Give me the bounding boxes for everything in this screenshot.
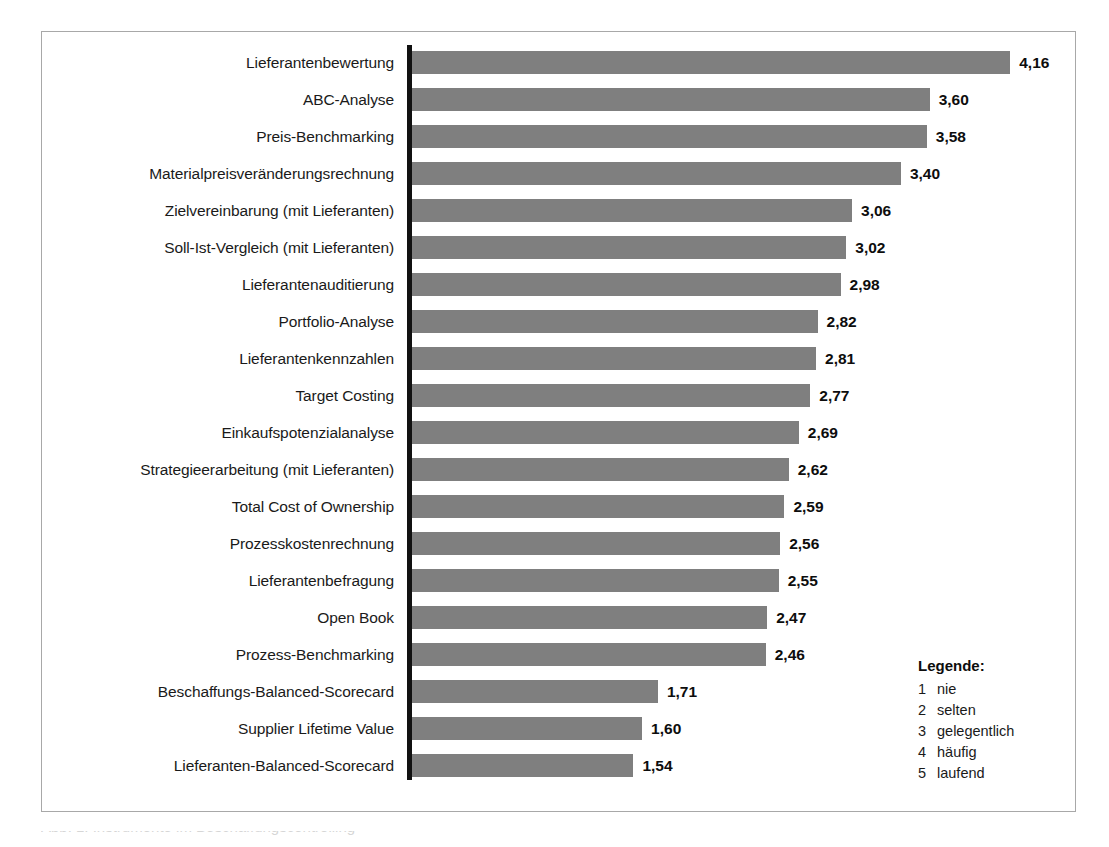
bar-row: Target Costing2,77 [42, 384, 1075, 407]
bar-row: Lieferantenbefragung2,55 [42, 569, 1075, 592]
bar-container: 4,16 [412, 51, 1010, 74]
category-label: Prozess-Benchmarking [42, 641, 394, 668]
bar-row: Preis-Benchmarking3,58 [42, 125, 1075, 148]
legend-item-key: 3 [907, 721, 937, 742]
legend-title: Legende: [907, 657, 1057, 674]
bar-container: 2,98 [412, 273, 841, 296]
category-label: Materialpreisveränderungsrechnung [42, 160, 394, 187]
bar-value-label: 2,69 [799, 420, 838, 445]
bar [412, 384, 810, 407]
bar-value-label: 2,98 [841, 272, 880, 297]
bar-value-label: 2,62 [789, 457, 828, 482]
legend-item-key: 4 [907, 742, 937, 763]
bar-row: Zielvereinbarung (mit Lieferanten)3,06 [42, 199, 1075, 222]
bar-row: Soll-Ist-Vergleich (mit Lieferanten)3,02 [42, 236, 1075, 259]
bar-value-label: 2,82 [818, 309, 857, 334]
bar-container: 1,71 [412, 680, 658, 703]
legend-item-label: selten [937, 700, 1057, 721]
bar [412, 236, 846, 259]
legend-item-label: gelegentlich [937, 721, 1057, 742]
bar [412, 717, 642, 740]
category-label: Lieferantenkennzahlen [42, 345, 394, 372]
category-label: Lieferantenbewertung [42, 49, 394, 76]
bar [412, 421, 799, 444]
bar-container: 2,55 [412, 569, 779, 592]
bar [412, 273, 841, 296]
figure-caption-text: Abb. 1: Instrumente im Beschaffungscontr… [41, 831, 355, 835]
bar-container: 3,02 [412, 236, 846, 259]
bar-row: Lieferantenkennzahlen2,81 [42, 347, 1075, 370]
bar-value-label: 4,16 [1010, 50, 1049, 75]
bar [412, 606, 767, 629]
category-label: Beschaffungs-Balanced-Scorecard [42, 678, 394, 705]
category-label: Lieferantenauditierung [42, 271, 394, 298]
legend-item: 2selten [907, 700, 1057, 721]
bar-row: Open Book2,47 [42, 606, 1075, 629]
bar-value-label: 2,55 [779, 568, 818, 593]
bar [412, 754, 633, 777]
bar-value-label: 3,40 [901, 161, 940, 186]
bar-value-label: 3,06 [852, 198, 891, 223]
bar [412, 569, 779, 592]
bar-row: Portfolio-Analyse2,82 [42, 310, 1075, 333]
bar-value-label: 2,56 [780, 531, 819, 556]
bar [412, 162, 901, 185]
bar-value-label: 3,02 [846, 235, 885, 260]
bar-row: Prozesskostenrechnung2,56 [42, 532, 1075, 555]
bar-container: 2,47 [412, 606, 767, 629]
bar-row: ABC-Analyse3,60 [42, 88, 1075, 111]
bar [412, 347, 816, 370]
category-label: ABC-Analyse [42, 86, 394, 113]
figure-caption-clipped: Abb. 1: Instrumente im Beschaffungscontr… [41, 831, 1076, 847]
category-label: Prozesskostenrechnung [42, 530, 394, 557]
category-label: Strategieerarbeitung (mit Lieferanten) [42, 456, 394, 483]
chart-frame: Lieferantenbewertung4,16ABC-Analyse3,60P… [41, 31, 1076, 812]
bar-value-label: 2,77 [810, 383, 849, 408]
bar-container: 2,82 [412, 310, 818, 333]
legend-item: 1nie [907, 679, 1057, 700]
category-label: Zielvereinbarung (mit Lieferanten) [42, 197, 394, 224]
bar-container: 1,54 [412, 754, 633, 777]
category-label: Preis-Benchmarking [42, 123, 394, 150]
bar-value-label: 2,59 [784, 494, 823, 519]
bar [412, 680, 658, 703]
legend: Legende: 1nie2selten3gelegentlich4häufig… [907, 657, 1057, 784]
bar [412, 199, 852, 222]
bar-value-label: 1,60 [642, 716, 681, 741]
legend-item: 4häufig [907, 742, 1057, 763]
category-label: Soll-Ist-Vergleich (mit Lieferanten) [42, 234, 394, 261]
bar [412, 495, 784, 518]
bar-row: Lieferantenauditierung2,98 [42, 273, 1075, 296]
bar-container: 3,60 [412, 88, 930, 111]
bar [412, 51, 1010, 74]
legend-item: 3gelegentlich [907, 721, 1057, 742]
bar-container: 2,69 [412, 421, 799, 444]
legend-item-key: 5 [907, 763, 937, 784]
category-label: Lieferanten-Balanced-Scorecard [42, 752, 394, 779]
bar-row: Einkaufspotenzialanalyse2,69 [42, 421, 1075, 444]
category-label: Lieferantenbefragung [42, 567, 394, 594]
bar-container: 2,46 [412, 643, 766, 666]
bar-row: Total Cost of Ownership2,59 [42, 495, 1075, 518]
bar-container: 2,62 [412, 458, 789, 481]
bar-value-label: 1,54 [633, 753, 672, 778]
legend-item-label: laufend [937, 763, 1057, 784]
legend-item-label: häufig [937, 742, 1057, 763]
category-label: Target Costing [42, 382, 394, 409]
category-label: Open Book [42, 604, 394, 631]
category-label: Portfolio-Analyse [42, 308, 394, 335]
bar-row: Lieferantenbewertung4,16 [42, 51, 1075, 74]
category-label: Total Cost of Ownership [42, 493, 394, 520]
bar [412, 532, 780, 555]
bar-container: 3,40 [412, 162, 901, 185]
bar-container: 3,58 [412, 125, 927, 148]
bar-container: 2,59 [412, 495, 784, 518]
category-label: Einkaufspotenzialanalyse [42, 419, 394, 446]
bar-value-label: 1,71 [658, 679, 697, 704]
bar-container: 2,56 [412, 532, 780, 555]
bar-container: 3,06 [412, 199, 852, 222]
legend-item-label: nie [937, 679, 1057, 700]
bar-row: Strategieerarbeitung (mit Lieferanten)2,… [42, 458, 1075, 481]
legend-item-key: 2 [907, 700, 937, 721]
bar [412, 125, 927, 148]
